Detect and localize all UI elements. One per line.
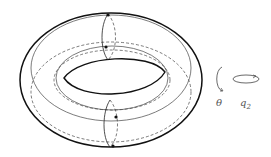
meridian-lower-back bbox=[110, 100, 118, 147]
meridian-lower-front bbox=[104, 100, 110, 147]
theta-rotation-icon bbox=[217, 67, 222, 91]
torus-outer-edge bbox=[20, 13, 202, 147]
theta-label: θ bbox=[216, 97, 222, 108]
point-upper-inner bbox=[104, 45, 107, 48]
meridian-upper-back bbox=[108, 14, 116, 60]
q2-label: q2 bbox=[240, 97, 251, 111]
point-lower-inner bbox=[114, 115, 117, 118]
longitude-lower-dashed bbox=[31, 42, 191, 142]
torus-diagram bbox=[0, 0, 271, 157]
point-bottom bbox=[111, 144, 114, 147]
point-top bbox=[106, 13, 109, 16]
meridian-upper-front bbox=[102, 14, 108, 60]
torus-hole-edge bbox=[64, 59, 165, 94]
longitude-upper bbox=[31, 15, 191, 121]
q2-subscript: 2 bbox=[246, 103, 250, 111]
longitude-inner bbox=[56, 46, 168, 110]
